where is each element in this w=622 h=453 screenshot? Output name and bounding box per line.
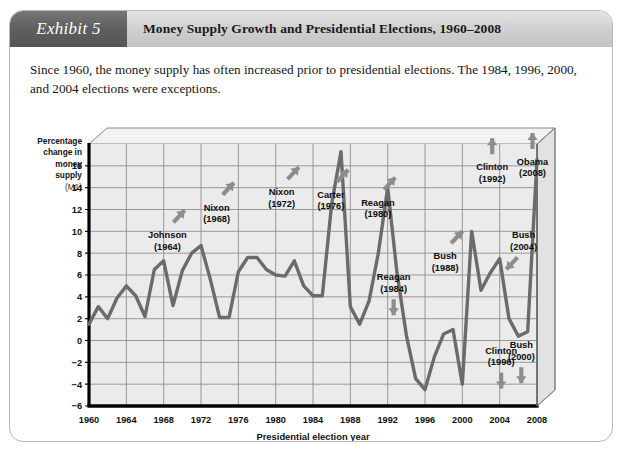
y-axis-tick-label: 8 (77, 249, 82, 259)
x-axis-tick-label: 1980 (265, 415, 285, 425)
x-axis-tick-label: 2008 (527, 415, 547, 425)
annotation-year: (1968) (203, 214, 230, 224)
annotation-year: (1976) (317, 201, 344, 211)
exhibit-title: Money Supply Growth and Presidential Ele… (143, 11, 501, 47)
annotation-name: Nixon (269, 187, 295, 197)
annotation-year: (1980) (365, 209, 392, 219)
annotation-year: (2000) (508, 352, 535, 362)
chart-container: −6−4−20246810121416196019641968197219761… (10, 116, 613, 442)
y-axis-tick-label: 12 (72, 205, 82, 215)
exhibit-number-label: Exhibit 5 (36, 19, 101, 39)
x-axis-tick-label: 2004 (489, 415, 510, 425)
exhibit-caption: Since 1960, the money supply has often i… (30, 60, 596, 98)
annotation-year: (1972) (268, 199, 295, 209)
x-axis-tick-label: 1968 (153, 415, 173, 425)
money-supply-line-chart: −6−4−20246810121416196019641968197219761… (10, 116, 613, 442)
annotation-year: (1984) (380, 284, 407, 294)
x-axis-tick-label: 1984 (303, 415, 324, 425)
y-axis-tick-label: 6 (77, 270, 82, 280)
annotation-name: Bush (512, 230, 536, 240)
annotation-name: Reagan (361, 198, 395, 208)
x-axis-tick-label: 1960 (79, 415, 99, 425)
annotation-name: Bush (510, 340, 534, 350)
x-axis-tick-label: 2000 (452, 415, 472, 425)
x-axis-tick-label: 1972 (191, 415, 211, 425)
y-axis-tick-label: 14 (72, 183, 83, 193)
annotation-year: (2008) (519, 168, 546, 178)
x-axis-title: Presidential election year (256, 431, 369, 442)
annotation-name: Clinton (476, 162, 508, 172)
annotation-name: Johnson (148, 230, 187, 240)
screenshot-root: Exhibit 5 Money Supply Growth and Presid… (0, 0, 622, 453)
x-axis-tick-label: 1964 (116, 415, 137, 425)
y-axis-tick-label: −4 (72, 380, 83, 390)
y-axis-tick-label: 16 (72, 161, 82, 171)
annotation-name: Reagan (377, 272, 411, 282)
exhibit-header-band: Exhibit 5 Money Supply Growth and Presid… (10, 11, 613, 47)
y-axis-tick-labels: −6−4−20246810121416 (72, 161, 89, 411)
annotation-year: (1988) (432, 263, 459, 273)
y-axis-tick-label: 0 (77, 336, 82, 346)
x-axis-tick-label: 1988 (340, 415, 360, 425)
y-axis-tick-label: −6 (72, 401, 82, 411)
x-axis-tick-label: 1976 (228, 415, 248, 425)
y-axis-tick-label: 4 (77, 292, 83, 302)
x-axis-tick-labels: 1960196419681972197619801984198819921996… (79, 415, 547, 425)
x-axis-tick-label: 1992 (377, 415, 397, 425)
chart-3d-top-face (89, 128, 555, 144)
exhibit-card: Exhibit 5 Money Supply Growth and Presid… (9, 10, 613, 442)
annotation-year: (2004) (510, 242, 537, 252)
annotation-name: Bush (434, 251, 458, 261)
exhibit-number-badge: Exhibit 5 (10, 11, 127, 47)
x-axis-tick-label: 1996 (415, 415, 435, 425)
y-axis-tick-label: −2 (72, 358, 82, 368)
y-axis-tick-label: 2 (77, 314, 82, 324)
annotation-name: Nixon (204, 203, 230, 213)
annotation-name: Carter (317, 190, 345, 200)
annotation-name: Obama (517, 157, 549, 167)
annotation-year: (1964) (154, 242, 181, 252)
annotation-year: (1992) (479, 174, 506, 184)
y-axis-tick-label: 10 (72, 227, 82, 237)
